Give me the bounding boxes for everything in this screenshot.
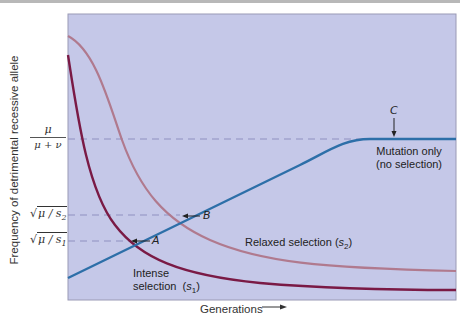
sqrt-s2-tick-label: √μ / s2 <box>30 207 67 222</box>
relaxed-selection-label: Relaxed selection (s2) <box>245 236 352 251</box>
x-axis-label: Generations <box>200 303 263 315</box>
mutation-only-label: Mutation only (no selection) <box>376 145 442 171</box>
equilibrium-tick-label: μ μ + ν <box>30 123 66 150</box>
point-b-label: B <box>203 209 211 222</box>
point-a-label: A <box>152 234 160 247</box>
y-axis-label: Frequency of detrimental recessive allel… <box>4 40 24 280</box>
sqrt-s1-tick-label: √μ / s1 <box>30 233 67 248</box>
x-axis-arrowhead <box>280 305 287 310</box>
intense-selection-label: Intense selection (s1) <box>133 267 200 297</box>
point-c-label: C <box>390 104 398 117</box>
